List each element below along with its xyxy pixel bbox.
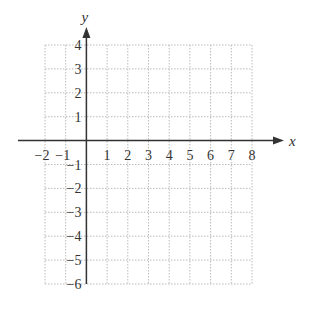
x-axis-label: x (288, 133, 296, 149)
y-tick-label: −5 (66, 253, 81, 268)
y-tick-label: −3 (66, 205, 81, 220)
x-tick-label: 7 (228, 148, 235, 163)
y-axis-arrow-icon (82, 27, 90, 38)
x-axis-arrow-icon (273, 137, 284, 145)
x-tick-label: 4 (166, 148, 173, 163)
y-tick-label: 2 (74, 86, 81, 101)
x-tick-label: 5 (186, 148, 193, 163)
y-tick-label: 1 (74, 110, 81, 125)
x-tick-label: 6 (207, 148, 214, 163)
x-tick-label: 8 (249, 148, 256, 163)
x-tick-label: 1 (104, 148, 111, 163)
y-tick-label: 4 (74, 38, 81, 53)
x-tick-label: 3 (145, 148, 152, 163)
y-tick-label: −4 (66, 229, 81, 244)
y-tick-label: −1 (66, 158, 81, 173)
coordinate-plane: −2−112345678 4321−1−2−3−4−5−6 x y (0, 0, 321, 310)
y-tick-label: −2 (66, 181, 81, 196)
y-tick-label: 3 (74, 62, 81, 77)
y-tick-label: −6 (66, 277, 81, 292)
y-axis-label: y (79, 9, 88, 25)
y-tick-labels: 4321−1−2−3−4−5−6 (66, 38, 81, 292)
x-tick-label: 2 (124, 148, 131, 163)
x-tick-label: −2 (35, 148, 50, 163)
